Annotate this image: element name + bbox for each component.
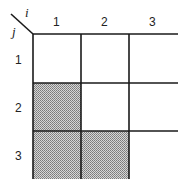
row-header-2: 2 [15, 101, 22, 115]
shaded-cell-r3-c1 [33, 131, 81, 179]
col-header-1: 1 [53, 15, 60, 29]
col-header-3: 3 [149, 15, 156, 29]
shaded-cell-r3-c2 [81, 131, 129, 179]
col-axis-label: i [25, 5, 29, 20]
row-header-1: 1 [15, 53, 22, 67]
row-axis-label: j [10, 24, 16, 39]
col-header-2: 2 [101, 15, 108, 29]
row-header-3: 3 [15, 149, 22, 163]
shaded-cell-r2-c1 [33, 83, 81, 131]
matrix-diagram: i j 1 2 3 1 2 3 [0, 0, 186, 187]
